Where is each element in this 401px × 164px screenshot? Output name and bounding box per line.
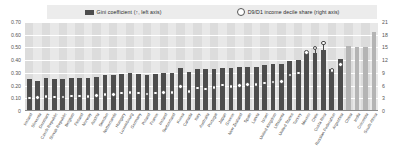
bar-slot[interactable]: [33, 22, 41, 111]
bar-slot[interactable]: [92, 22, 100, 111]
bar-slot[interactable]: [370, 22, 378, 111]
chart-legend: Gini coefficient (↑, left axis) D9/D1 in…: [47, 5, 377, 19]
decile-share-marker: [94, 93, 99, 98]
gini-inequality-chart: Gini coefficient (↑, left axis) D9/D1 in…: [0, 0, 401, 164]
axis-tick: 0.10: [0, 95, 24, 102]
decile-share-marker: [338, 62, 343, 67]
bar-slot[interactable]: [244, 22, 252, 111]
decile-share-marker: [330, 68, 335, 73]
bar-slot[interactable]: [286, 22, 294, 111]
bar-slot[interactable]: [109, 22, 117, 111]
decile-share-marker: [321, 41, 326, 46]
bar-slot[interactable]: [101, 22, 109, 111]
bar-slot[interactable]: [143, 22, 151, 111]
bar: [313, 53, 318, 111]
axis-tick: 0.50: [0, 44, 24, 51]
x-axis-label-text: China: [343, 112, 353, 124]
bar-slot[interactable]: [42, 22, 50, 111]
bar-slot[interactable]: [168, 22, 176, 111]
decile-share-marker: [161, 90, 166, 95]
axis-tick: 0.20: [0, 82, 24, 89]
bar: [237, 67, 242, 112]
bar-slot[interactable]: [227, 22, 235, 111]
bar: [195, 69, 200, 111]
bar: [254, 67, 259, 112]
bar-slot[interactable]: [151, 22, 159, 111]
bar-slot[interactable]: [311, 22, 319, 111]
bar: [212, 69, 217, 111]
bar-slot[interactable]: [353, 22, 361, 111]
bar: [304, 53, 309, 111]
axis-tick: 0.60: [0, 31, 24, 38]
axis-tick: 0.70: [0, 19, 24, 26]
bar-slot[interactable]: [294, 22, 302, 111]
legend-item-decile-share[interactable]: D9/D1 income decile share (right axis): [237, 8, 340, 16]
bar-slot[interactable]: [50, 22, 58, 111]
bar: [355, 47, 360, 111]
decile-share-marker: [304, 50, 309, 55]
decile-share-marker: [195, 86, 200, 91]
bar-slot[interactable]: [235, 22, 243, 111]
decile-share-marker: [237, 83, 242, 88]
bar-slot[interactable]: [210, 22, 218, 111]
bar-slot[interactable]: [336, 22, 344, 111]
axis-tick: 21: [379, 19, 401, 26]
legend-label-gini: Gini coefficient (↑, left axis): [97, 9, 162, 15]
bar-slot[interactable]: [117, 22, 125, 111]
decile-share-marker: [69, 94, 74, 99]
bar-slot[interactable]: [277, 22, 285, 111]
bar-slot[interactable]: [260, 22, 268, 111]
decile-share-marker: [103, 92, 108, 97]
bar: [363, 47, 368, 111]
decile-share-marker: [313, 46, 318, 51]
bar-slot[interactable]: [202, 22, 210, 111]
decile-share-marker: [52, 95, 57, 100]
x-axis-labels: IcelandSloveniaDenmarkCzech RepublicSlov…: [25, 112, 378, 162]
bar-slot[interactable]: [160, 22, 168, 111]
x-axis-label-text: Latvia: [251, 112, 261, 124]
axis-tick: 0: [379, 108, 401, 115]
bar-slot[interactable]: [126, 22, 134, 111]
axis-tick: 3: [379, 95, 401, 102]
bar-slot[interactable]: [193, 22, 201, 111]
bar-slot[interactable]: [269, 22, 277, 111]
decile-share-marker: [153, 91, 158, 96]
decile-share-marker: [44, 94, 49, 99]
bar: [245, 67, 250, 112]
x-axis-label-text: Mexico: [300, 112, 311, 126]
bar-slot[interactable]: [361, 22, 369, 111]
bar-slot[interactable]: [84, 22, 92, 111]
legend-item-gini[interactable]: Gini coefficient (↑, left axis): [85, 9, 162, 15]
bar-slot[interactable]: [75, 22, 83, 111]
bar-slot[interactable]: [134, 22, 142, 111]
axis-tick: 0.40: [0, 57, 24, 64]
bar-slot[interactable]: [252, 22, 260, 111]
bar-slot[interactable]: [25, 22, 33, 111]
bar-slot[interactable]: [59, 22, 67, 111]
bar: [321, 50, 326, 111]
square-swatch-icon: [85, 10, 94, 15]
bar-slot[interactable]: [176, 22, 184, 111]
x-axis-baseline: [25, 110, 378, 111]
bar-slot[interactable]: [344, 22, 352, 111]
y-axis-right: 211815129630: [379, 19, 401, 111]
bar-slot[interactable]: [319, 22, 327, 111]
bar: [229, 68, 234, 111]
y-axis-left: 0.700.600.500.400.300.200.100: [0, 19, 24, 111]
bar: [178, 68, 183, 111]
bar-slot[interactable]: [67, 22, 75, 111]
bar-slot[interactable]: [302, 22, 310, 111]
bar-slot[interactable]: [328, 22, 336, 111]
bar-slot[interactable]: [185, 22, 193, 111]
axis-tick: 12: [379, 57, 401, 64]
legend-label-decile-share: D9/D1 income decile share (right axis): [248, 9, 340, 15]
decile-share-marker: [262, 81, 267, 86]
bar: [220, 68, 225, 111]
bar: [296, 60, 301, 111]
bar-slot[interactable]: [218, 22, 226, 111]
plot-area: [25, 22, 378, 111]
axis-tick: 0: [0, 108, 24, 115]
decile-share-marker: [296, 71, 301, 76]
x-axis-label: Canada: [185, 112, 193, 162]
axis-tick: 9: [379, 69, 401, 76]
